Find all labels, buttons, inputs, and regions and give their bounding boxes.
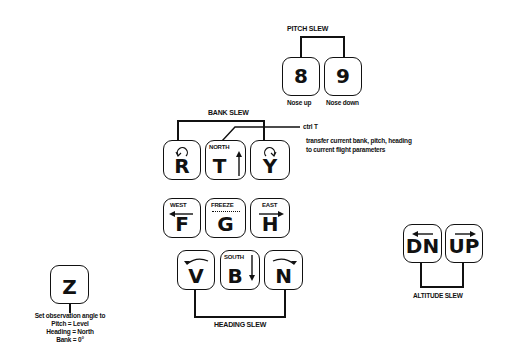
key-up-letter: UP: [446, 236, 482, 256]
key-n-letter: N: [265, 266, 302, 286]
key-up[interactable]: UP: [445, 224, 483, 263]
key-t-letter: T: [200, 156, 239, 176]
key-z-letter: Z: [51, 277, 88, 297]
altitude-slew-label: ALTITUDE SLEW: [413, 292, 463, 299]
heading-slew-bracket-left: [194, 290, 196, 317]
key-dn-letter: DN: [404, 236, 441, 256]
heading-slew-bracket-right: [284, 290, 286, 317]
arrow-up-icon: [236, 151, 242, 177]
altitude-slew-bracket: [420, 286, 464, 288]
key-y-letter: Y: [251, 156, 289, 176]
observation-line-2: Pitch = Level: [29, 320, 111, 328]
key-z[interactable]: Z: [50, 265, 89, 304]
observation-line-4: Bank = 0°: [29, 336, 111, 344]
key-r-letter: R: [164, 156, 200, 176]
ctrl-t-description-2: to current flight parameters: [306, 146, 385, 154]
key-g-sublabel: FREEZE: [211, 202, 233, 208]
observation-line-3: Heading = North: [29, 328, 111, 336]
key-t[interactable]: NORTH T: [205, 140, 246, 180]
heading-slew-label: HEADING SLEW: [214, 321, 266, 328]
key-g-letter: G: [206, 214, 245, 234]
ctrl-t-label: ctrl T: [303, 123, 318, 131]
key-v[interactable]: V: [177, 250, 215, 290]
key-h-sublabel: EAST: [262, 202, 277, 208]
key-f-letter: F: [164, 214, 200, 234]
key-v-letter: V: [178, 266, 214, 286]
ctrl-t-description-1: transfer current bank, pitch, heading: [306, 137, 412, 145]
key-t-sublabel: NORTH: [209, 144, 229, 150]
key-y[interactable]: Y: [250, 140, 290, 180]
key-r[interactable]: R: [163, 140, 201, 180]
key-h[interactable]: EAST H: [250, 198, 290, 238]
key-b-sublabel: SOUTH: [224, 254, 244, 260]
key-h-letter: H: [251, 214, 289, 234]
heading-slew-bracket: [194, 316, 286, 318]
altitude-slew-bracket-left: [420, 263, 422, 287]
key-b[interactable]: SOUTH B: [220, 250, 260, 290]
key-f-sublabel: WEST: [170, 202, 187, 208]
key-n[interactable]: N: [264, 250, 303, 290]
key-dn[interactable]: DN: [403, 224, 442, 263]
key-g[interactable]: FREEZE G: [205, 198, 246, 238]
altitude-slew-bracket-right: [462, 263, 464, 287]
observation-line-1: Set observation angle to: [29, 312, 111, 320]
key-b-letter: B: [216, 266, 254, 286]
key-f[interactable]: WEST F: [163, 198, 201, 238]
